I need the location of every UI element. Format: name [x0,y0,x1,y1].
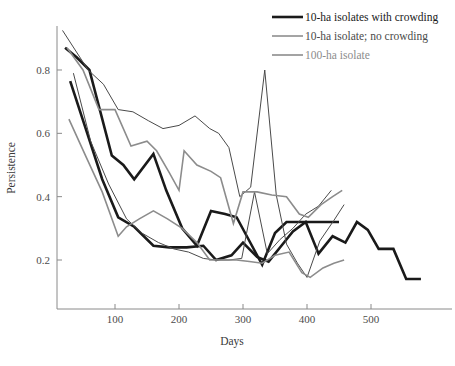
axis-titles: DaysPersistence [5,142,244,348]
x-tick-label: 400 [299,313,316,325]
series-line [65,48,339,265]
chart-legend: 10-ha isolates with crowding10-ha isolat… [272,11,438,61]
line-chart-canvas: 0.20.40.60.8100200300400500 10-ha isolat… [0,0,455,366]
y-tick-label: 0.6 [36,127,50,139]
data-series-group [63,30,421,279]
x-axis-title: Days [220,335,244,348]
x-tick-label: 100 [107,313,124,325]
y-tick-label: 0.8 [36,64,50,76]
legend-label: 100-ha isolate [305,49,370,61]
series-line [63,30,345,277]
x-tick-label: 500 [363,313,380,325]
chart-figure: 0.20.40.60.8100200300400500 10-ha isolat… [0,0,455,366]
series-line [67,48,342,224]
y-tick-label: 0.4 [36,191,50,203]
x-tick-label: 300 [235,313,252,325]
x-tick-label: 200 [171,313,188,325]
y-tick-label: 0.2 [36,254,50,266]
y-axis-title: Persistence [5,142,17,194]
legend-label: 10-ha isolate; no crowding [305,30,428,43]
legend-label: 10-ha isolates with crowding [305,11,438,24]
axes: 0.20.40.60.8100200300400500 [36,26,452,325]
